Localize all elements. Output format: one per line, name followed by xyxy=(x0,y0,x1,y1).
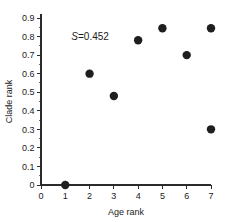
x-tick-label: 5 xyxy=(160,191,165,201)
data-point xyxy=(134,36,142,44)
y-tick-label: 0.4 xyxy=(22,106,35,116)
data-point xyxy=(85,69,93,77)
y-axis-ticks: 00.10.20.30.40.50.60.70.80.9 xyxy=(22,13,41,190)
y-tick-label: 0.7 xyxy=(22,50,35,60)
data-point xyxy=(183,51,191,59)
x-tick-label: 1 xyxy=(63,191,68,201)
statistic-annotation: S=0.452 xyxy=(71,31,109,42)
data-point xyxy=(110,92,118,100)
x-tick-label: 7 xyxy=(208,191,213,201)
x-axis-title: Age rank xyxy=(108,207,145,217)
y-tick-label: 0.3 xyxy=(22,125,35,135)
data-markers xyxy=(61,24,215,189)
y-tick-label: 0.5 xyxy=(22,87,35,97)
y-tick-label: 0.1 xyxy=(22,162,35,172)
x-tick-label: 0 xyxy=(38,191,43,201)
data-point xyxy=(158,24,166,32)
y-tick-label: 0 xyxy=(29,180,34,190)
x-tick-label: 4 xyxy=(136,191,141,201)
y-tick-label: 0.2 xyxy=(22,143,35,153)
plot-canvas: 00.10.20.30.40.50.60.70.80.9 01234567 S=… xyxy=(0,0,229,222)
statistic-value: =0.452 xyxy=(78,31,109,42)
x-tick-label: 2 xyxy=(87,191,92,201)
y-tick-label: 0.9 xyxy=(22,13,35,23)
data-point xyxy=(61,181,69,189)
data-point xyxy=(207,125,215,133)
axis-lines xyxy=(41,14,211,185)
data-point xyxy=(207,24,215,32)
y-tick-label: 0.8 xyxy=(22,32,35,42)
scatter-plot-figure: 00.10.20.30.40.50.60.70.80.9 01234567 S=… xyxy=(0,0,229,222)
y-tick-label: 0.6 xyxy=(22,69,35,79)
x-tick-label: 3 xyxy=(111,191,116,201)
chart-annotations: S=0.452 xyxy=(71,31,109,42)
x-tick-label: 6 xyxy=(184,191,189,201)
y-axis-title: Clade rank xyxy=(4,79,14,123)
